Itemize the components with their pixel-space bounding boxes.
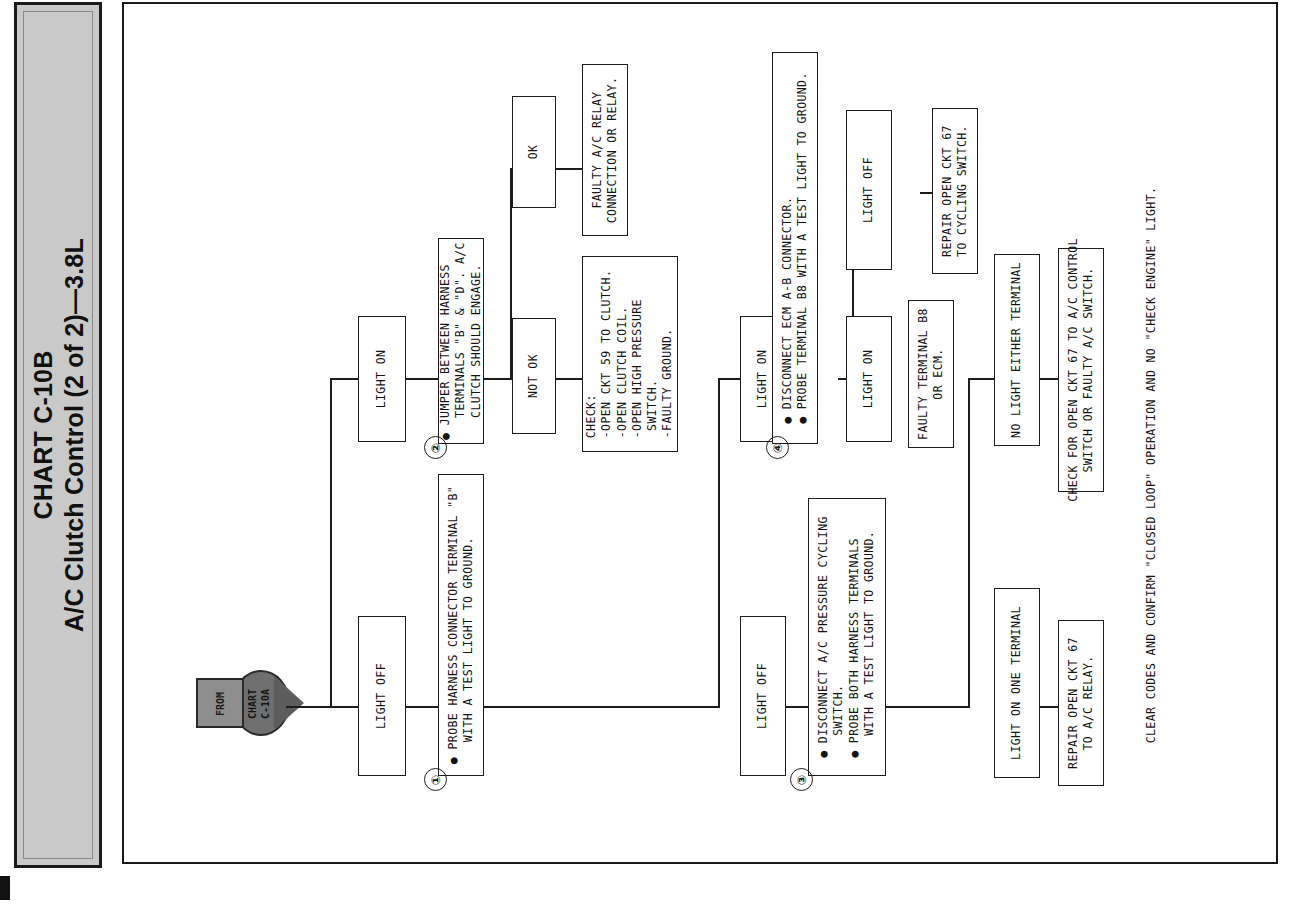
connector-step3-out: [886, 706, 970, 708]
title-line-1: CHART C-10B: [28, 238, 59, 632]
node-light-off-3: LIGHT OFF: [846, 110, 892, 270]
node-step-2-label: ● JUMPER BETWEEN HARNESS TERMINALS "B" &…: [438, 242, 484, 440]
node-light-on-3: LIGHT ON: [846, 316, 892, 442]
start-node-from-chart-c10a: FROM CHART C-10A: [196, 666, 292, 740]
node-light-on-2-label: LIGHT ON: [755, 350, 770, 409]
node-repair-ckt67-relay: REPAIR OPEN CKT 67 TO A/C RELAY.: [1058, 620, 1104, 786]
node-ok-label: OK: [526, 145, 541, 160]
connector-ok-to-faulty-relay: [556, 168, 582, 170]
node-step-3-label: ● DISCONNECT A/C PRESSURE CYCLING SWITCH…: [816, 516, 877, 758]
node-step-3: ● DISCONNECT A/C PRESSURE CYCLING SWITCH…: [808, 498, 886, 776]
node-repair-ckt67-cycling: REPAIR OPEN CKT 67 TO CYCLING SWITCH.: [932, 108, 978, 274]
footer-note: CLEAR CODES AND CONFIRM "CLOSED LOOP" OP…: [1138, 120, 1164, 810]
step-number-2: ②: [424, 436, 447, 459]
title-band: CHART C-10B A/C Clutch Control (2 of 2)—…: [14, 2, 102, 868]
node-light-off-2-label: LIGHT OFF: [755, 663, 770, 729]
node-light-on-3-label: LIGHT ON: [861, 350, 876, 409]
step-number-3: ③: [790, 768, 813, 791]
connector-lightoff1-to-step1: [406, 706, 438, 708]
node-light-on-one-terminal: LIGHT ON ONE TERMINAL: [994, 588, 1040, 778]
node-step-2: ● JUMPER BETWEEN HARNESS TERMINALS "B" &…: [438, 238, 484, 444]
node-repair-ckt67-cycling-label: REPAIR OPEN CKT 67 TO CYCLING SWITCH.: [940, 125, 971, 257]
node-faulty-relay-label: FAULTY A/C RELAY CONNECTION OR RELAY.: [590, 77, 621, 223]
start-node-arrow: [274, 676, 304, 730]
connector-lighton1-to-step2: [406, 378, 438, 380]
chart-frame: [122, 2, 1278, 864]
node-step-1-label: ● PROBE HARNESS CONNECTOR TERMINAL "B" W…: [446, 486, 477, 764]
node-step-4: ● DISCONNECT ECM A-B CONNECTOR. ● PROBE …: [772, 52, 818, 444]
connector-step3-split-vertical: [968, 378, 970, 708]
footer-note-text: CLEAR CODES AND CONFIRM "CLOSED LOOP" OP…: [1144, 187, 1158, 744]
node-check-ckt67-control-switch-label: CHECK FOR OPEN CKT 67 TO A/C CONTROL SWI…: [1066, 238, 1097, 502]
node-no-light-either-terminal: NO LIGHT EITHER TERMINAL: [994, 254, 1040, 446]
node-step-4-label: ● DISCONNECT ECM A-B CONNECTOR. ● PROBE …: [780, 72, 811, 424]
connector-lightonone-to-repair67relay: [1040, 706, 1058, 708]
start-node-label-chart: CHART C-10A: [240, 678, 278, 730]
connector-nolight-to-check67: [1040, 378, 1058, 380]
node-no-light-either-terminal-label: NO LIGHT EITHER TERMINAL: [1009, 262, 1024, 438]
node-light-off-3-label: LIGHT OFF: [861, 157, 876, 223]
node-faulty-terminal-b8: FAULTY TERMINAL B8 OR ECM.: [908, 300, 954, 448]
connector-step2-out: [484, 378, 512, 380]
step-number-1: ①: [424, 768, 447, 791]
node-check-ckt67-control-switch: CHECK FOR OPEN CKT 67 TO A/C CONTROL SWI…: [1058, 248, 1104, 492]
connector-lower-split-vertical: [718, 378, 720, 708]
page-corner-marker: [0, 876, 10, 900]
connector-to-light-on-2: [718, 378, 740, 380]
node-step-1: ● PROBE HARNESS CONNECTOR TERMINAL "B" W…: [438, 474, 484, 776]
node-faulty-relay: FAULTY A/C RELAY CONNECTION OR RELAY.: [582, 64, 628, 236]
step-number-4: ④: [766, 436, 789, 459]
node-repair-ckt67-relay-label: REPAIR OPEN CKT 67 TO A/C RELAY.: [1066, 637, 1097, 769]
connector-to-light-on-1: [330, 378, 360, 380]
node-not-ok-label: NOT OK: [526, 354, 541, 398]
node-ok: OK: [512, 96, 556, 208]
node-light-on-one-terminal-label: LIGHT ON ONE TERMINAL: [1009, 606, 1024, 760]
node-light-off-1: LIGHT OFF: [358, 616, 406, 776]
node-check-list-label: CHECK: -OPEN CKT 59 TO CLUTCH. -OPEN CLU…: [584, 270, 676, 438]
node-light-on-1-label: LIGHT ON: [374, 350, 389, 409]
connector-step1-to-lower: [484, 706, 720, 708]
node-check-list: CHECK: -OPEN CKT 59 TO CLUTCH. -OPEN CLU…: [582, 256, 678, 452]
node-faulty-terminal-b8-label: FAULTY TERMINAL B8 OR ECM.: [916, 308, 947, 440]
page-title: CHART C-10B A/C Clutch Control (2 of 2)—…: [28, 238, 89, 632]
start-node-label-from: FROM: [206, 684, 236, 724]
connector-step1-branch-vertical: [330, 378, 332, 708]
connector-lightoff2-to-step3: [786, 706, 808, 708]
node-light-off-1-label: LIGHT OFF: [374, 663, 389, 729]
node-not-ok: NOT OK: [512, 318, 556, 434]
connector-notok-to-check: [556, 378, 582, 380]
node-light-on-1: LIGHT ON: [358, 316, 406, 442]
chart-page: CHART C-10B A/C Clutch Control (2 of 2)—…: [0, 0, 1290, 910]
connector-start-to-step1: [286, 706, 358, 708]
connector-to-no-light-either: [968, 378, 994, 380]
title-line-2: A/C Clutch Control (2 of 2)—3.8L: [58, 238, 89, 632]
node-light-off-2: LIGHT OFF: [740, 616, 786, 776]
